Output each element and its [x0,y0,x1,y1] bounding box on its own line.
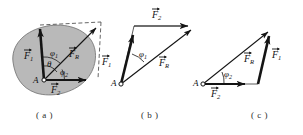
label-f1-sub-b: 1 [108,61,111,68]
caption-panel-a: ( a ) [36,110,53,120]
label-phi1-sub-a: 1 [55,53,58,59]
label-f1-sub-c: 1 [278,54,281,61]
label-fr-sub-a: R [75,53,79,60]
label-f2-sub-c: 2 [217,93,220,100]
label-f2-panel-a: F2 [51,85,60,97]
label-f2-panel-c: F2 [211,89,220,101]
panel-c-graphics [201,32,269,86]
vector-fr-c [203,32,268,84]
caption-panel-c: ( c ) [251,110,268,120]
label-fr-sub-c: R [250,58,254,65]
vector-f1-c [258,36,269,84]
origin-point-c [201,82,205,86]
label-phi1-panel-b: φ1 [139,50,147,60]
label-point-a-panel-a: A [33,76,39,85]
label-f1-sub-a: 1 [30,55,33,62]
panel-b-graphics [119,26,191,86]
label-fr-sub-b: R [165,62,169,69]
force-vector-figure: F1 F2 FR φ1 θ φ2 A ( a ) F1 [0,0,303,135]
label-f2-sub-a: 2 [57,89,60,96]
label-theta-panel-a: θ [47,60,51,70]
label-fr-panel-a: FR [69,49,79,61]
label-f1-panel-a: F1 [24,51,33,63]
label-phi2-panel-c: φ2 [224,70,232,80]
origin-point-b [119,82,123,86]
label-phi1-panel-a: φ1 [50,49,58,59]
caption-panel-b: ( b ) [141,110,159,120]
origin-point-a [42,78,46,82]
label-point-a-panel-b: A [111,79,117,88]
label-theta-glyph-a: θ [47,59,51,69]
label-phi2-sub-c: 2 [229,74,232,80]
label-phi1-sub-b: 1 [144,54,147,60]
label-f2-sub-b: 2 [158,14,161,21]
label-point-a-panel-c: A [193,79,199,88]
label-phi2-sub-a: 2 [65,72,68,78]
label-f2-panel-b: F2 [152,10,161,22]
label-fr-panel-c: FR [244,54,254,66]
label-f1-panel-b: F1 [102,57,111,69]
label-f1-panel-c: F1 [272,50,281,62]
label-phi2-panel-a: φ2 [60,68,68,78]
label-fr-panel-b: FR [159,58,169,70]
